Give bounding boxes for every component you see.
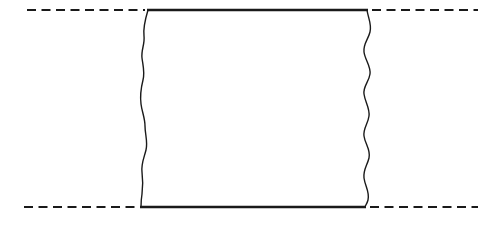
right-wavy-edge (364, 10, 371, 207)
strip-diagram (0, 0, 480, 226)
left-wavy-edge (141, 10, 148, 207)
